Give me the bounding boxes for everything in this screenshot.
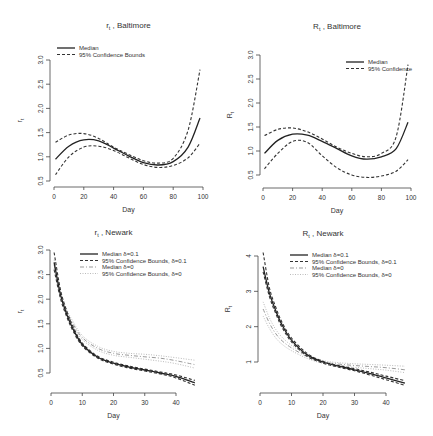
y-tick-label: 1.5 [37,319,44,328]
y-tick-label: 1.5 [37,128,44,137]
y-tick-label: 3.0 [37,245,44,254]
chart-title: rt , Newark [95,228,134,238]
series-line-median-0 [54,265,195,365]
x-axis-label: Day [317,412,330,420]
y-tick-label: 2.0 [37,294,44,303]
x-tick-label: 40 [172,399,180,406]
y-tick-label: 3.0 [37,55,44,64]
y-tick-label: 4 [245,254,252,258]
legend-label: 95% Confidence [368,66,413,72]
y-tick-label: 2.0 [37,104,44,113]
y-tick-label: 2.5 [37,270,44,279]
x-tick-label: 0 [261,194,265,201]
legend-label: 95% Confidence Bounds, δ=0 [102,271,182,277]
series-line-median-0 [263,309,405,370]
x-tick-label: 100 [198,193,209,200]
legend-label: 95% Confidence Bounds [79,52,145,58]
x-tick-label: 30 [141,399,149,406]
y-axis-label: rt [16,309,25,313]
series-line-median [265,122,409,159]
x-axis-label: Day [122,206,135,214]
legend-label: Median [368,59,388,65]
chart-title: Rt , Baltimore [313,22,361,32]
y-tick-label: 3.0 [247,50,254,59]
y-tick-label: 1.0 [247,146,254,155]
x-axis-label: Day [331,207,344,215]
x-axis-label: Day [107,412,120,420]
x-tick-label: 40 [382,399,390,406]
y-tick-label: 2.5 [37,79,44,88]
panel-2: Rt , Baltimore0.51.01.52.02.53.0Rt020406… [226,22,417,215]
title-rest: , Baltimore [110,21,151,30]
legend-label: Median δ=0 [312,265,344,271]
y-label-subscript: t [19,309,25,311]
series-line-median-0-1 [54,262,195,383]
y-tick-label: 0.5 [37,368,44,377]
y-tick-label: 1.0 [37,344,44,353]
y-label-subscript: t [19,118,25,120]
x-tick-label: 100 [406,194,417,201]
x-tick-label: 20 [289,194,297,201]
title-rest: , Newark [99,228,134,237]
y-tick-label: 3 [245,289,252,293]
x-tick-label: 20 [110,399,118,406]
x-tick-label: 30 [351,399,359,406]
x-tick-label: 40 [110,193,118,200]
x-tick-label: 10 [79,399,87,406]
y-tick-label: 1.5 [247,122,254,131]
y-tick-label: 1.0 [37,152,44,161]
legend-label: Median δ=0.1 [102,251,139,257]
figure: rt , Baltimore0.51.01.52.02.53.0rt020406… [0,0,433,436]
y-tick-label: 0.5 [247,170,254,179]
x-tick-label: 0 [258,399,262,406]
x-tick-label: 0 [52,193,56,200]
y-label-subscript: t [229,111,235,113]
y-tick-label: 1 [245,360,252,364]
panel-3: rt , Newark0.51.01.52.02.53.0rt010203040… [16,228,195,420]
legend-label: Median [79,45,99,51]
title-rest: , Newark [310,229,345,238]
y-axis-label: Rt [224,305,233,312]
x-tick-label: 60 [348,194,356,201]
y-label-subscript: t [227,305,233,307]
legend-label: Median δ=0 [102,264,134,270]
series-line-median-0-1 [263,267,405,384]
x-tick-label: 80 [378,194,386,201]
legend-label: 95% Confidence Bounds, δ=0 [312,272,392,278]
y-axis-label: rt [16,118,25,122]
legend-label: 95% Confidence Bounds, δ=0.1 [312,259,397,265]
chart-title: rt , Baltimore [106,21,151,31]
x-tick-label: 40 [319,194,327,201]
series-line-95-confidence-bounds-upper- [56,70,201,163]
x-tick-label: 80 [170,193,178,200]
y-tick-label: 2.0 [247,98,254,107]
y-tick-label: 0.5 [37,176,44,185]
x-tick-label: 20 [319,399,327,406]
y-tick-label: 2 [245,324,252,328]
series-line-95-confidence-bounds-upper- [265,65,409,157]
x-tick-label: 0 [49,399,53,406]
y-tick-label: 2.5 [247,74,254,83]
title-rest: , Baltimore [320,22,361,31]
legend-label: 95% Confidence Bounds, δ=0.1 [102,258,187,264]
panel-1: rt , Baltimore0.51.01.52.02.53.0rt020406… [16,21,209,214]
x-tick-label: 10 [288,399,296,406]
legend-label: Median δ=0.1 [312,252,349,258]
y-axis-label: Rt [226,111,235,118]
series-line-95-confidence-bounds-lower- [265,140,409,177]
x-tick-label: 20 [80,193,88,200]
panel-4: Rt , Newark1234Rt010203040DayMedian δ=0.… [224,229,405,420]
x-tick-label: 60 [140,193,148,200]
series-line-95-confidence-bounds-lower- [56,143,201,175]
series-line-95-confidence-bounds-0-upper- [263,302,405,366]
chart-title: Rt , Newark [302,229,344,239]
